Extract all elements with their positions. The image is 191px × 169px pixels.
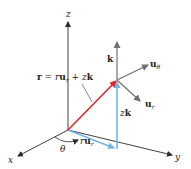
label-pointer-line: [82, 84, 92, 102]
position-vector: [68, 81, 116, 130]
y-axis-label: y: [174, 152, 181, 162]
z-axis-label: z: [65, 9, 71, 19]
theta-label: θ: [60, 144, 66, 154]
theta-arc: [55, 137, 78, 142]
cylindrical-coordinates-diagram: z x y θ r = rur + zk k uθ ur zk rur: [0, 0, 191, 169]
k-label: k: [107, 54, 114, 64]
x-axis-label: x: [8, 155, 13, 165]
u-theta-label: uθ: [150, 59, 161, 70]
r-ur-label: rur: [80, 136, 95, 147]
u-r-unit-vector: [117, 80, 140, 101]
u-r-label: ur: [145, 99, 156, 110]
u-theta-unit-vector: [117, 65, 148, 80]
position-vector-equation: r = rur + zk: [37, 72, 94, 83]
zk-label: zk: [119, 108, 132, 118]
axes: [18, 22, 172, 156]
